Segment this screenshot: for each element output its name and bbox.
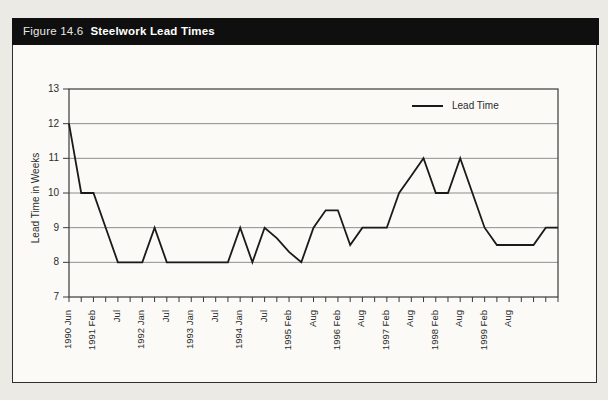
legend: Lead Time <box>412 100 499 111</box>
x-tick-label-24: Aug <box>355 305 372 323</box>
x-tick-label-28: Aug <box>404 305 421 323</box>
x-tick-label-36: Aug <box>502 305 519 323</box>
x-tick-label-16: Jul <box>258 305 270 323</box>
x-tick-label-20: Aug <box>307 305 324 323</box>
y-tick-label-13: 13 <box>19 83 59 94</box>
y-tick-label-11: 11 <box>19 152 59 163</box>
figure-title-bar: Figure 14.6Steelwork Lead Times <box>12 18 599 45</box>
chart-area: Lead Time in Weeks Lead Time 78910111213… <box>13 45 596 382</box>
y-tick-label-10: 10 <box>19 187 59 198</box>
y-tick-label-12: 12 <box>19 118 59 129</box>
legend-line-sample <box>412 105 443 107</box>
y-tick-label-7: 7 <box>19 291 59 302</box>
x-tick-label-32: Aug <box>453 305 470 323</box>
legend-label: Lead Time <box>452 100 499 111</box>
y-tick-label-9: 9 <box>19 222 59 233</box>
x-tick-label-8: Jul <box>160 305 172 323</box>
y-tick-label-8: 8 <box>19 256 59 267</box>
x-tick-label-4: Jul <box>111 305 123 323</box>
x-tick-label-12: Jul <box>209 305 221 323</box>
figure-number: Figure 14.6 <box>23 25 83 37</box>
figure-panel: Figure 14.6Steelwork Lead Times Lead Tim… <box>12 18 597 383</box>
figure-title: Steelwork Lead Times <box>90 25 215 37</box>
chart-svg <box>13 45 596 382</box>
